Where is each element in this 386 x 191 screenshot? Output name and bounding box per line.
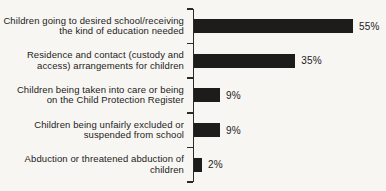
value-label: 9% (226, 90, 241, 101)
bar-chart: Children going to desired school/receivi… (0, 0, 386, 191)
plot-cell: 9% (193, 78, 386, 113)
axis-tick (187, 8, 193, 10)
chart-rows: Children going to desired school/receivi… (0, 9, 386, 182)
plot-cell: 2% (193, 147, 386, 182)
chart-row: Children going to desired school/receivi… (0, 9, 386, 44)
value-label: 35% (301, 55, 322, 66)
plot-cell: 9% (193, 113, 386, 148)
chart-row: Children being taken into care or being … (0, 78, 386, 113)
plot-cell: 55% (193, 9, 386, 44)
plot-cell: 35% (193, 44, 386, 79)
bar (194, 54, 295, 68)
category-label: Children going to desired school/receivi… (0, 16, 193, 37)
value-label: 2% (208, 159, 223, 170)
axis-tick (187, 112, 193, 114)
chart-row: Children being unfairly excluded or susp… (0, 113, 386, 148)
bar (194, 19, 353, 33)
category-label: Residence and contact (custody and acces… (0, 50, 193, 71)
axis-tick (187, 77, 193, 79)
axis-tick (187, 181, 193, 183)
axis-tick (187, 43, 193, 45)
value-label: 55% (359, 21, 380, 32)
bar (194, 158, 202, 172)
category-label: Children being unfairly excluded or susp… (0, 120, 193, 141)
axis-tick (187, 147, 193, 149)
chart-row: Abduction or threatened abduction of chi… (0, 147, 386, 182)
value-label: 9% (226, 125, 241, 136)
bar (194, 88, 220, 102)
category-label: Abduction or threatened abduction of chi… (0, 154, 193, 175)
bar (194, 123, 220, 137)
category-label: Children being taken into care or being … (0, 85, 193, 106)
chart-row: Residence and contact (custody and acces… (0, 44, 386, 79)
